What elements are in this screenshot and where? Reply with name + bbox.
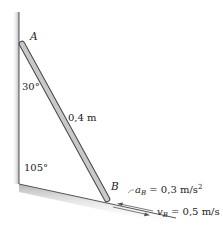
acceleration-superscript: 2 bbox=[198, 183, 202, 191]
angle-105-label: 105° bbox=[24, 163, 48, 173]
acceleration-subscript: B bbox=[141, 189, 146, 197]
velocity-value: = 0,5 m/s bbox=[171, 206, 220, 217]
acceleration-label: aB = 0,3 m/s2 bbox=[135, 184, 202, 197]
angle-30-label: 30° bbox=[22, 82, 40, 92]
wall bbox=[12, 12, 19, 184]
rod-length-label: 0,4 m bbox=[68, 113, 97, 123]
point-A-label: A bbox=[30, 31, 38, 42]
acceleration-value: = 0,3 m/s bbox=[149, 184, 198, 195]
velocity-subscript: B bbox=[163, 211, 168, 219]
point-B-label: B bbox=[111, 181, 119, 192]
velocity-label: vB = 0,5 m/s bbox=[157, 207, 220, 219]
